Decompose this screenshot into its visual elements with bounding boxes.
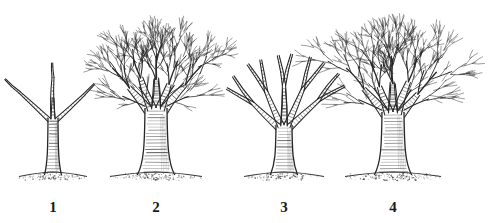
- tree-growth-figure: 1 2 3 4: [0, 0, 490, 223]
- tree-illustration-canvas: [0, 0, 490, 223]
- figure-background: [0, 0, 490, 223]
